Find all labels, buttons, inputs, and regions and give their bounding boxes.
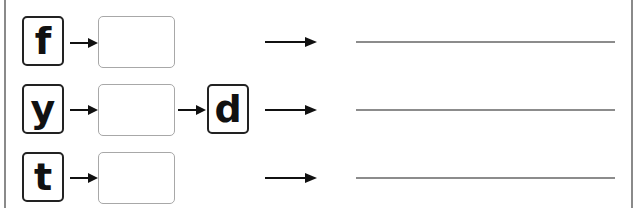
arrow-icon [70, 38, 98, 48]
start-letter: f [35, 22, 52, 60]
arrow-icon [70, 173, 98, 183]
start-letter-box: t [22, 152, 64, 202]
start-letter-box: f [22, 16, 64, 66]
blank-letter-box[interactable] [98, 84, 175, 136]
answer-line[interactable] [356, 109, 615, 111]
end-letter: d [214, 90, 241, 128]
start-letter-box: y [22, 84, 64, 134]
answer-line[interactable] [356, 177, 615, 179]
arrow-icon [70, 105, 98, 115]
long-arrow-icon [265, 105, 317, 115]
start-letter: y [31, 90, 56, 128]
start-letter: t [34, 158, 52, 196]
blank-letter-box[interactable] [98, 16, 175, 68]
end-letter-box: d [207, 84, 249, 134]
arrow-icon [178, 105, 206, 115]
blank-letter-box[interactable] [98, 152, 175, 204]
frame-left-border [4, 0, 6, 208]
frame-right-border [631, 0, 633, 208]
long-arrow-icon [265, 173, 317, 183]
answer-line[interactable] [356, 41, 615, 43]
long-arrow-icon [265, 37, 317, 47]
